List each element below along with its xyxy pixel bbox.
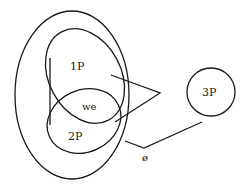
label-we: we — [82, 101, 97, 112]
outer-set-ellipse — [15, 11, 129, 179]
empty-set-connector — [125, 122, 202, 148]
label-2p: 2P — [68, 130, 83, 143]
diagram-canvas: 1P we 2P 3P ø — [0, 0, 247, 189]
label-empty-set: ø — [142, 152, 148, 163]
label-1p: 1P — [70, 60, 85, 73]
union-pointer-lines — [111, 75, 160, 122]
first-person-ellipse — [30, 15, 141, 137]
label-3p: 3P — [202, 86, 217, 99]
